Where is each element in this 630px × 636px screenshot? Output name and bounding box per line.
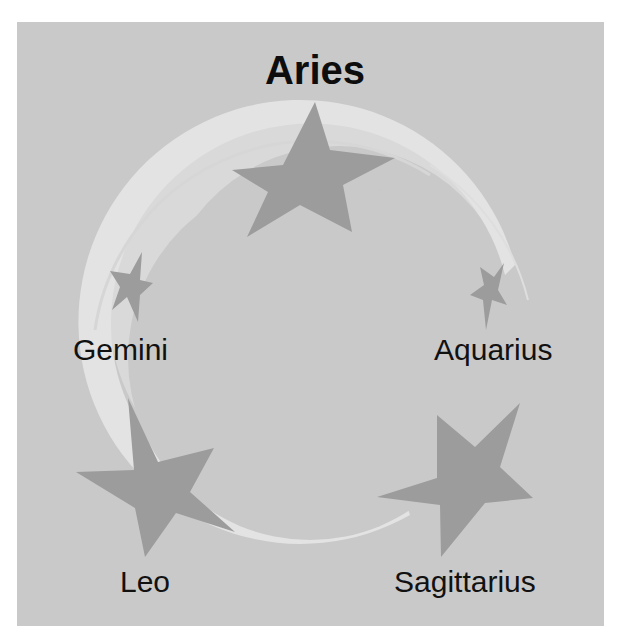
label-leo: Leo (120, 567, 170, 597)
title-aries: Aries (0, 50, 630, 90)
label-gemini: Gemini (73, 335, 168, 365)
label-aquarius: Aquarius (434, 335, 552, 365)
label-sagittarius: Sagittarius (394, 567, 536, 597)
zodiac-ring-diagram (0, 0, 630, 636)
